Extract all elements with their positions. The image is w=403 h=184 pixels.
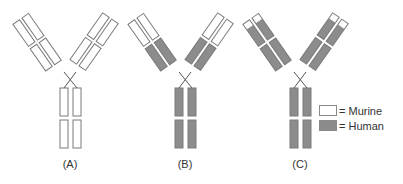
legend-item-murine: = Murine (319, 103, 384, 118)
fc-domain (60, 88, 68, 116)
fc-domain (188, 120, 196, 148)
fc-domain (290, 88, 298, 116)
legend: = Murine = Human (319, 103, 384, 133)
antibody-b (115, 0, 245, 160)
fc-domain (303, 88, 311, 116)
fc-domain (73, 120, 81, 148)
legend-item-human: = Human (319, 118, 384, 133)
fc-domain (60, 120, 68, 148)
human-swatch (319, 120, 337, 131)
panel-label-b: (B) (165, 158, 205, 170)
fc-domain (175, 88, 183, 116)
fc-domain (73, 88, 81, 116)
fc-domain (303, 120, 311, 148)
panel-label-c: (C) (280, 158, 320, 170)
panel-label-a: (A) (50, 158, 90, 170)
antibody-a (0, 0, 130, 160)
murine-swatch (319, 105, 337, 116)
legend-label-human: = Human (339, 120, 384, 132)
fc-domain (188, 88, 196, 116)
antibody-c (230, 0, 360, 160)
fc-domain (290, 120, 298, 148)
fc-domain (175, 120, 183, 148)
legend-label-murine: = Murine (339, 105, 382, 117)
